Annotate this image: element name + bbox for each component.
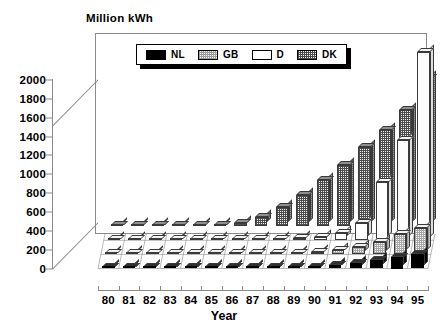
white-swatch [252, 50, 272, 60]
bar-dk-80 [111, 225, 124, 227]
bar-side-face [430, 44, 434, 236]
bar-side-face [386, 234, 390, 251]
bar-front-face [267, 266, 280, 268]
dark-checker-swatch [297, 50, 317, 60]
bar-d-93 [376, 182, 389, 240]
y-tick-mark [46, 136, 53, 137]
bar-front-face [249, 252, 262, 254]
bar-front-face [126, 252, 139, 254]
bar-front-face [111, 224, 124, 226]
bar-gb-80 [105, 253, 118, 255]
bar-dk-90 [317, 180, 330, 226]
x-tick-mark [222, 286, 223, 291]
bar-dk-88 [276, 207, 289, 226]
x-tick-label: 80 [102, 294, 115, 306]
bar-front-face [164, 266, 177, 268]
x-tick-mark [428, 286, 429, 291]
legend-item-d: D [252, 49, 285, 60]
bar-nl-90 [308, 267, 321, 269]
legend-label: D [277, 49, 285, 60]
bar-nl-80 [102, 267, 115, 269]
bar-d-82 [149, 239, 162, 241]
legend-label: NL [171, 49, 185, 60]
x-tick-mark [139, 286, 140, 291]
bar-nl-87 [246, 267, 259, 269]
bar-front-face [131, 224, 144, 226]
bar-d-84 [190, 239, 203, 241]
y-tick-mark [46, 193, 53, 194]
x-tick-mark [304, 286, 305, 291]
bar-nl-83 [164, 267, 177, 269]
bar-front-face [190, 238, 203, 240]
bar-dk-87 [255, 217, 268, 226]
legend-label: DK [322, 49, 337, 60]
bar-nl-94 [391, 257, 404, 269]
bar-front-face [355, 223, 368, 240]
bar-nl-93 [370, 260, 383, 268]
bar-front-face [376, 182, 389, 240]
bar-gb-83 [167, 253, 180, 255]
bar-dk-91 [337, 165, 350, 226]
legend-item-dk: DK [297, 49, 337, 60]
bar-gb-93 [373, 242, 386, 255]
bar-gb-87 [249, 253, 262, 255]
x-tick-label: 89 [287, 294, 300, 306]
bar-front-face [350, 263, 363, 269]
bar-front-face [172, 224, 185, 226]
bar-nl-86 [226, 267, 239, 269]
solid-black-swatch [146, 50, 166, 60]
bar-front-face [143, 266, 156, 268]
bar-front-face [105, 252, 118, 254]
bar-gb-92 [352, 247, 365, 255]
bar-gb-90 [311, 252, 324, 254]
bar-dk-86 [234, 223, 247, 226]
bar-front-face [291, 252, 304, 254]
bar-front-face [149, 238, 162, 240]
bar-front-face [391, 257, 404, 269]
bar-front-face [185, 266, 198, 268]
x-tick-mark [119, 286, 120, 291]
x-axis-title: Year [0, 309, 448, 323]
bar-front-face [108, 238, 121, 240]
y-tick-mark [46, 155, 53, 156]
y-tick-mark [46, 80, 53, 81]
bar-gb-84 [187, 253, 200, 255]
bar-dk-84 [193, 225, 206, 227]
bar-d-91 [335, 233, 348, 240]
x-tick-mark [242, 286, 243, 291]
x-tick-label: 91 [329, 294, 342, 306]
bar-d-85 [211, 239, 224, 241]
bar-front-face [232, 238, 245, 240]
bar-front-face [358, 147, 371, 226]
bar-front-face [214, 224, 227, 226]
x-tick-label: 87 [246, 294, 259, 306]
x-tick-label: 92 [349, 294, 362, 306]
chart-figure: Million kWh 0200400600800100012001400160… [0, 0, 448, 330]
bar-d-86 [232, 239, 245, 241]
bar-d-89 [293, 238, 306, 240]
x-tick-label: 90 [308, 294, 321, 306]
bar-side-face [424, 246, 428, 264]
bar-front-face [234, 223, 247, 226]
bar-side-face [388, 174, 392, 236]
bar-dk-92 [358, 147, 371, 226]
bar-d-81 [128, 239, 141, 241]
x-tick-mark [387, 286, 388, 291]
x-tick-label: 84 [184, 294, 197, 306]
y-tick-mark [46, 211, 53, 212]
y-tick-mark [46, 249, 53, 250]
bar-nl-81 [123, 267, 136, 269]
bar-side-face [371, 139, 375, 222]
bar-front-face [417, 52, 430, 241]
x-tick-mark [263, 286, 264, 291]
bar-d-90 [314, 237, 327, 241]
bar-d-83 [170, 239, 183, 241]
x-tick-mark [325, 286, 326, 291]
bar-gb-85 [208, 253, 221, 255]
x-tick-mark [181, 286, 182, 291]
bar-front-face [397, 140, 410, 240]
bar-front-face [270, 252, 283, 254]
bar-gb-81 [126, 253, 139, 255]
bar-front-face [373, 242, 386, 255]
legend-label: GB [223, 49, 239, 60]
